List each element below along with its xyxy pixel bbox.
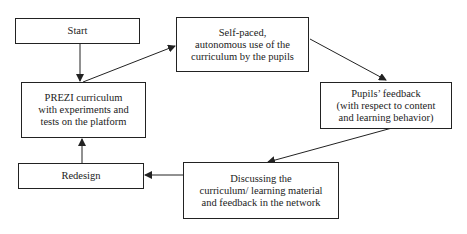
node-prezi-line: PREZI curriculum	[45, 92, 123, 104]
node-feedback-line: (with respect to content	[337, 100, 436, 112]
node-discussing-line: curriculum/ learning material	[199, 185, 322, 197]
node-redesign-line: Redesign	[61, 170, 100, 182]
node-prezi-line: with experiments and	[38, 104, 128, 116]
node-discussing-line: Discussing the	[230, 173, 292, 185]
node-feedback-line: and learning behavior)	[338, 112, 433, 124]
node-start-line: Start	[68, 25, 88, 37]
arrow-prezi-to-self-paced	[83, 46, 175, 82]
node-prezi: PREZI curriculum with experiments and te…	[21, 82, 146, 138]
node-self-paced: Self-paced, autonomous use of the curric…	[176, 17, 309, 72]
arrow-self-paced-to-feedback	[310, 39, 386, 80]
arrow-feedback-to-discussing	[268, 128, 392, 162]
node-redesign: Redesign	[18, 163, 144, 189]
node-discussing-line: and feedback in the network	[202, 197, 321, 209]
node-self-paced-line: Self-paced,	[219, 27, 267, 39]
node-feedback: Pupils’ feedback (with respect to conten…	[320, 82, 452, 129]
node-prezi-line: tests on the platform	[40, 116, 126, 128]
node-discussing: Discussing the curriculum/ learning mate…	[183, 162, 339, 219]
node-start: Start	[15, 18, 140, 44]
node-self-paced-line: autonomous use of the	[195, 39, 290, 51]
node-feedback-line: Pupils’ feedback	[351, 88, 421, 100]
node-self-paced-line: curriculum by the pupils	[191, 51, 294, 63]
